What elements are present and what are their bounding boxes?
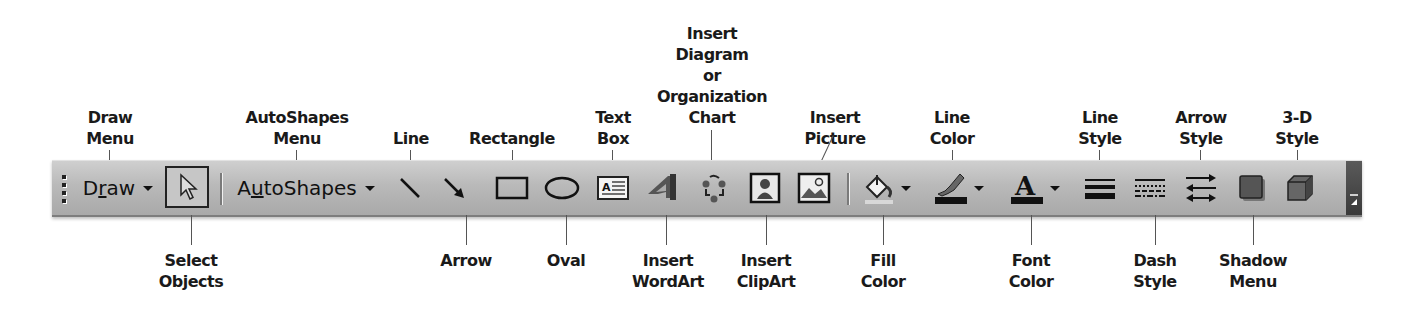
chevron-down-icon [365,186,375,191]
callout-arrow-style: Arrow Style [1175,107,1226,149]
callout-select-objects: Select Objects [159,250,224,292]
insert-wordart-button[interactable] [642,161,686,215]
callout-autoshapes-menu: AutoShapes Menu [246,107,349,149]
font-color-button[interactable]: A [1002,161,1066,215]
callout-font-color: Font Color [1009,250,1054,292]
diagram-cycle-icon [698,172,730,204]
callout-insert-picture: Insert Picture [805,107,866,149]
arrow-icon [440,174,468,202]
chevron-down-icon[interactable] [901,186,911,191]
callout-dash-style: Dash Style [1133,250,1176,292]
rectangle-button[interactable] [492,161,532,215]
svg-text:A: A [602,181,611,194]
line-color-button[interactable] [927,161,989,215]
select-objects-button[interactable] [165,166,209,208]
dash-style-button[interactable] [1130,161,1170,215]
leader-line [566,215,567,245]
callout-oval: Oval [547,250,585,271]
insert-clipart-button[interactable] [745,161,785,215]
paint-bucket-icon [861,171,897,205]
leader-line [1031,215,1032,245]
arrow-button[interactable] [436,161,472,215]
leader-line [711,130,712,164]
line-icon [396,174,424,202]
callout-insert-diagram: Insert Diagram or Organization Chart [657,23,767,128]
draw-menu-button[interactable]: Draw [78,161,158,215]
insert-diagram-button[interactable] [694,161,734,215]
line-style-button[interactable] [1082,161,1118,215]
toolbar-grip-handle[interactable] [62,175,67,205]
oval-button[interactable] [542,161,582,215]
leader-line [466,215,467,245]
dash-lines-icon [1133,175,1167,201]
svg-text:A: A [1014,171,1036,201]
paintbrush-icon [932,170,970,206]
leader-line [1155,215,1156,245]
autoshapes-menu-label: AutoShapes [237,176,357,200]
pointer-arrow-icon [167,168,207,206]
clipart-icon [749,172,781,204]
toolbar-options-icon [1346,161,1362,215]
picture-icon [797,172,831,204]
callout-fill-color: Fill Color [861,250,906,292]
leader-line [883,215,884,245]
leader-line [1253,215,1254,245]
chevron-down-icon[interactable] [974,186,984,191]
callout-rectangle: Rectangle [469,128,555,149]
3d-style-button[interactable] [1280,161,1320,215]
fill-color-button[interactable] [857,161,915,215]
callout-insert-wordart: Insert WordArt [632,250,704,292]
callout-arrow: Arrow [440,250,491,271]
wordart-icon [646,172,682,204]
callout-line-style: Line Style [1078,107,1121,149]
arrow-direction-icon [1183,173,1219,203]
font-color-a-icon: A [1008,170,1046,206]
cube-icon [1284,172,1316,204]
leader-line [666,215,667,245]
oval-icon [543,174,581,202]
text-box-button[interactable]: A [593,161,633,215]
drawing-toolbar: Draw AutoShapes A [52,160,1362,217]
leader-line [191,215,192,245]
toolbar-separator [220,173,223,205]
callout-line: Line [393,128,429,149]
callout-insert-clipart: Insert ClipArt [737,250,796,292]
shadow-style-button[interactable] [1232,161,1272,215]
callout-shadow-menu: Shadow Menu [1219,250,1287,292]
arrow-style-button[interactable] [1181,161,1221,215]
callout-text-box: Text Box [595,107,631,149]
chevron-down-icon[interactable] [1050,186,1060,191]
shadow-square-icon [1236,173,1268,203]
rectangle-icon [494,174,530,202]
line-weight-icon [1083,175,1117,201]
draw-menu-label: Draw [83,176,135,200]
callout-3d-style: 3-D Style [1275,107,1318,149]
callout-line-color: Line Color [930,107,975,149]
line-button[interactable] [392,161,428,215]
insert-picture-button[interactable] [794,161,834,215]
text-box-icon: A [596,174,630,202]
leader-line [766,215,767,245]
toolbar-separator [847,173,850,205]
chevron-down-icon [143,186,153,191]
toolbar-options-button[interactable] [1346,161,1362,215]
autoshapes-menu-button[interactable]: AutoShapes [232,161,380,215]
callout-draw-menu: Draw Menu [86,107,134,149]
